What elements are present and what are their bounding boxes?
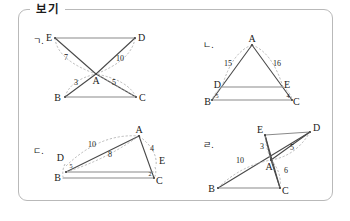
figure-2-vertex-dot-B (211, 99, 213, 101)
figure-1: ㄱ. E D A B C 7 10 3 (33, 32, 146, 103)
figure-4-segment-BD-through-A (218, 132, 310, 188)
figure-1-number-AC: 5 (112, 78, 116, 87)
figure-2-label-B: B (204, 96, 211, 107)
figure-4-vertex-dot-B (217, 187, 219, 189)
figure-4-vertex-dot-C (279, 187, 281, 189)
figure-2-marker: ㄴ. (203, 40, 214, 50)
figure-4-number-AC: 6 (284, 166, 288, 175)
figure-2-number-EC: 4 (286, 92, 289, 99)
figure-4-marker: ㄹ. (203, 140, 214, 150)
figure-3-label-B: B (54, 172, 61, 183)
figure-1-marker: ㄱ. (33, 36, 44, 46)
figure-1-label-D: D (138, 32, 145, 43)
figure-2-label-D: D (214, 79, 221, 90)
figure-3-vertex-dot-B (65, 171, 67, 173)
figure-3: ㄷ. A D E B C 10 8 4 5 2 (33, 124, 165, 186)
figure-3-vertex-dot-C (153, 177, 155, 179)
figure-3-arc-DB (63, 164, 65, 177)
screenshot-stage: 보기 ㄱ. E D A B C (0, 0, 350, 221)
figure-2-label-A: A (248, 33, 256, 44)
figure-2-number-AE: 16 (273, 59, 281, 68)
figure-3-arc-DA (66, 136, 139, 166)
figure-4-segment-ED (265, 132, 310, 135)
figure-2: ㄴ. A D E B C 15 16 5 4 (203, 33, 300, 107)
figure-4-vertex-dot-D (309, 131, 311, 133)
figure-1-label-B: B (54, 92, 61, 103)
figure-3-label-C: C (156, 175, 163, 186)
figure-1-vertex-dot-B (64, 96, 66, 98)
figure-3-vertex-dot-A (138, 135, 140, 137)
figure-1-segment-EA (55, 38, 96, 74)
figure-4-label-B: B (208, 183, 215, 194)
example-box-label: 보기 (30, 2, 65, 17)
figure-2-number-AD: 15 (224, 59, 232, 68)
figure-4-vertex-dot-E (264, 134, 266, 136)
figure-3-number-BA: 8 (108, 150, 112, 159)
figure-1-label-E: E (46, 32, 52, 43)
figure-2-label-C: C (293, 96, 300, 107)
figure-1-number-BA: 3 (74, 78, 78, 87)
figure-4-number-AD: 5 (290, 143, 294, 152)
figure-3-marker: ㄷ. (33, 146, 44, 156)
figure-1-label-C: C (139, 92, 146, 103)
figure-1-segment-AC (96, 74, 136, 97)
figure-4: ㄹ. E D A B C 3 5 10 6 (203, 122, 320, 196)
figure-2-number-DB: 5 (215, 92, 218, 99)
figure-4-label-A: A (265, 161, 273, 172)
figure-2-vertex-dot-A (251, 44, 253, 46)
figure-2-label-E: E (284, 79, 290, 90)
figure-1-label-A: A (92, 75, 100, 86)
figure-3-label-D: D (57, 152, 64, 163)
figure-3-label-E: E (159, 155, 165, 166)
figure-1-segment-AB (65, 74, 96, 97)
figure-3-number-DB: 5 (69, 162, 72, 169)
geometry-diagrams: ㄱ. E D A B C 7 10 3 (0, 0, 350, 221)
figure-1-number-EA: 7 (64, 53, 68, 62)
figure-4-label-C: C (282, 185, 289, 196)
figure-1-vertex-dot-E (54, 37, 56, 39)
figure-1-vertex-dot-D (134, 37, 136, 39)
figure-3-number-AE: 4 (150, 144, 154, 153)
figure-1-number-AD: 10 (116, 54, 124, 63)
figure-4-number-BA: 10 (236, 156, 244, 165)
figure-3-number-DA: 10 (88, 140, 96, 149)
figure-4-number-EA: 3 (260, 142, 264, 151)
figure-1-vertex-dot-C (135, 96, 137, 98)
figure-4-label-D: D (313, 122, 320, 133)
figure-3-label-A: A (135, 124, 143, 135)
figure-3-number-EC: 2 (148, 170, 151, 177)
figure-4-label-E: E (257, 124, 263, 135)
